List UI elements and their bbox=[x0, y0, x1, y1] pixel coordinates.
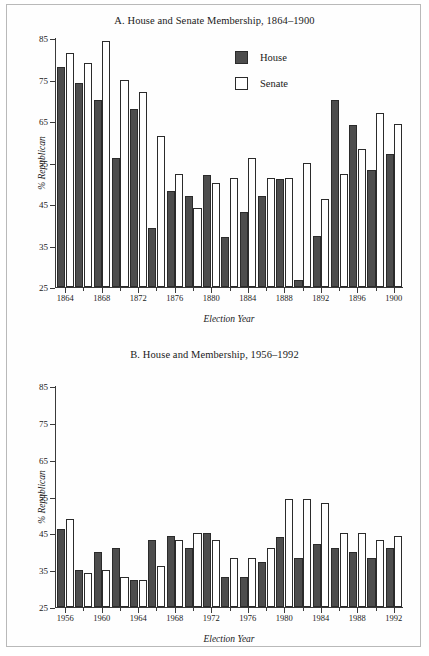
y-tick-label: 75 bbox=[39, 419, 48, 429]
chart-panel-b: B. House and Membership, 1956–1992 19561… bbox=[7, 331, 422, 647]
bar-senate-1962 bbox=[120, 577, 128, 607]
figure-frame: A. House and Senate Membership, 1864–190… bbox=[6, 4, 421, 647]
x-tick-mark-minor-1970 bbox=[193, 608, 194, 611]
y-axis-title-a: % Republican bbox=[37, 136, 47, 190]
bar-house-1900 bbox=[386, 154, 394, 287]
bar-senate-1984 bbox=[321, 503, 329, 607]
bar-senate-1900 bbox=[394, 124, 402, 287]
bar-house-1876 bbox=[167, 191, 175, 287]
bar-senate-1876 bbox=[175, 174, 183, 287]
x-tick-mark-minor-1958 bbox=[83, 608, 84, 611]
y-tick-label: 25 bbox=[39, 283, 48, 293]
x-tick-label-1960: 1960 bbox=[93, 613, 110, 623]
x-tick-label-1972: 1972 bbox=[203, 613, 220, 623]
y-tick-mark bbox=[50, 387, 55, 388]
bar-house-1978 bbox=[258, 562, 266, 607]
bar-house-1980 bbox=[276, 537, 284, 607]
plot-area-b: 1956196019641968197219761980198419881992… bbox=[55, 386, 403, 608]
bar-senate-1890 bbox=[303, 163, 311, 288]
bar-senate-1964 bbox=[139, 580, 147, 607]
y-tick-mark bbox=[50, 424, 55, 425]
x-tick-mark-minor-1966 bbox=[156, 608, 157, 611]
x-tick-mark-minor-1982 bbox=[303, 608, 304, 611]
bar-senate-1872 bbox=[139, 92, 147, 287]
bar-house-1962 bbox=[112, 548, 120, 607]
x-tick-label-1988: 1988 bbox=[349, 613, 366, 623]
bar-house-1974 bbox=[221, 577, 229, 607]
bar-senate-1886 bbox=[267, 178, 275, 287]
x-tick-label-1896: 1896 bbox=[349, 293, 366, 303]
bar-house-1874 bbox=[148, 228, 156, 287]
bar-senate-1892 bbox=[321, 199, 329, 287]
bar-house-1966 bbox=[148, 540, 156, 607]
x-tick-label-1872: 1872 bbox=[130, 293, 147, 303]
bar-senate-1986 bbox=[340, 533, 348, 607]
bar-group-a bbox=[56, 38, 403, 287]
y-tick-label: 85 bbox=[39, 34, 48, 44]
bar-group-b bbox=[56, 386, 403, 607]
x-tick-mark-minor-1978 bbox=[266, 608, 267, 611]
x-tick-label-group-b: 1956196019641968197219761980198419881992 bbox=[56, 613, 403, 627]
panel-a-title: A. House and Senate Membership, 1864–190… bbox=[7, 15, 422, 26]
y-tick-label: 35 bbox=[39, 566, 48, 576]
y-axis-title-b: % Republican bbox=[37, 470, 47, 524]
bar-senate-1970 bbox=[193, 533, 201, 607]
x-tick-mark-minor-1894 bbox=[339, 288, 340, 291]
x-tick-label-1984: 1984 bbox=[312, 613, 329, 623]
bar-house-1896 bbox=[349, 125, 357, 287]
bar-senate-1988 bbox=[358, 533, 366, 607]
bar-senate-1966 bbox=[157, 566, 165, 607]
y-tick-label: 85 bbox=[39, 382, 48, 392]
bar-house-1990 bbox=[367, 558, 375, 607]
x-tick-mark-minor-1990 bbox=[376, 608, 377, 611]
x-tick-mark-minor-1874 bbox=[156, 288, 157, 291]
bar-house-1868 bbox=[94, 100, 102, 287]
y-tick-mark bbox=[50, 205, 55, 206]
x-tick-mark-minor-1882 bbox=[230, 288, 231, 291]
bar-senate-1972 bbox=[212, 540, 220, 607]
bar-house-1878 bbox=[185, 196, 193, 287]
bar-house-1960 bbox=[94, 552, 102, 607]
bar-house-1892 bbox=[313, 236, 321, 287]
y-tick-mark bbox=[50, 288, 55, 289]
bar-senate-1880 bbox=[212, 183, 220, 287]
x-tick-label-1900: 1900 bbox=[385, 293, 402, 303]
y-tick-label: 65 bbox=[39, 117, 48, 127]
bar-house-1870 bbox=[112, 158, 120, 287]
x-tick-label-1884: 1884 bbox=[239, 293, 256, 303]
bar-house-1986 bbox=[331, 548, 339, 607]
bar-house-1970 bbox=[185, 548, 193, 607]
bar-senate-1882 bbox=[230, 178, 238, 287]
bar-senate-1864 bbox=[66, 53, 74, 287]
y-tick-mark bbox=[50, 122, 55, 123]
x-tick-label-1964: 1964 bbox=[130, 613, 147, 623]
legend-label-senate: Senate bbox=[260, 78, 288, 89]
bar-senate-1978 bbox=[267, 548, 275, 607]
bar-house-1968 bbox=[167, 536, 175, 607]
legend-swatch-house-icon bbox=[235, 51, 248, 64]
y-tick-mark bbox=[50, 571, 55, 572]
y-tick-mark bbox=[50, 534, 55, 535]
x-tick-label-1992: 1992 bbox=[385, 613, 402, 623]
bar-house-1982 bbox=[294, 558, 302, 607]
bar-house-1964 bbox=[130, 580, 138, 607]
y-tick-mark bbox=[50, 498, 55, 499]
legend-item-senate-a: Senate bbox=[235, 77, 288, 90]
bar-senate-1992 bbox=[394, 536, 402, 607]
bar-house-1882 bbox=[221, 237, 229, 287]
bar-senate-1956 bbox=[66, 519, 74, 607]
bar-house-1890 bbox=[294, 280, 302, 287]
y-tick-label: 35 bbox=[39, 242, 48, 252]
y-tick-label: 25 bbox=[39, 603, 48, 613]
bar-house-1866 bbox=[75, 83, 83, 287]
y-tick-mark bbox=[50, 461, 55, 462]
x-tick-mark-minor-1886 bbox=[266, 288, 267, 291]
bar-house-1880 bbox=[203, 175, 211, 287]
bar-senate-1888 bbox=[285, 178, 293, 287]
legend-label-house: House bbox=[260, 52, 287, 63]
x-tick-mark-minor-1890 bbox=[303, 288, 304, 291]
legend-a: House Senate bbox=[235, 51, 288, 103]
x-tick-mark-minor-1878 bbox=[193, 288, 194, 291]
y-tick-label: 45 bbox=[39, 200, 48, 210]
y-tick-label: 45 bbox=[39, 529, 48, 539]
